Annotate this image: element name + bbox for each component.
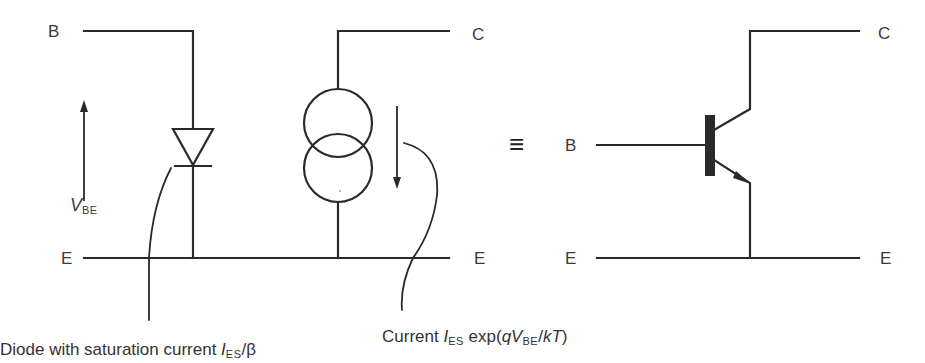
transistor-emitter-wire [714,160,750,258]
current-caption-v: V [511,327,522,346]
terminal-base-label: B [48,23,59,40]
transistor-collector-label: C [878,25,890,42]
transistor-base-bar [705,115,715,176]
circuit-diagram [0,0,925,363]
base-wire [84,31,193,129]
diode-caption-subscript: ES [226,348,242,360]
terminal-collector-label: C [472,26,484,43]
transistor-emitter-arrow-icon [733,171,751,184]
diode-caption-suffix: /β [242,340,257,359]
diode-caption: Diode with saturation current IES/β [0,341,256,360]
current-caption-subscript: ES [448,335,464,347]
current-arrow-head [393,177,401,189]
current-leader-curve [402,143,437,310]
current-caption-q: q [502,327,511,346]
transistor-base-label: B [565,137,576,154]
vbe-label: VBE [70,196,98,216]
current-caption-kt: kT [543,327,562,346]
diode-caption-text: Diode with saturation current [0,340,221,359]
transistor-emitter-left-label: E [565,250,576,267]
transistor-collector-wire [714,31,859,130]
terminal-emitter-right-label: E [474,250,485,267]
current-source-circle-top [304,89,372,157]
diode-icon [173,129,213,165]
collector-wire [338,31,449,88]
current-caption-v-subscript: BE [522,335,538,347]
current-source-circle-bottom [304,134,372,202]
current-caption-text: Current [382,327,443,346]
vbe-subscript: BE [82,204,98,216]
current-caption: Current IES exp(qVBE/kT) [382,328,567,347]
diode-leader-curve [149,168,171,320]
current-caption-exp: exp( [464,327,502,346]
transistor-emitter-right-label: E [880,250,891,267]
equivalence-symbol: ≡ [509,131,524,157]
vbe-symbol: V [70,195,82,215]
current-caption-close: ) [562,327,568,346]
vbe-arrow-head [80,100,88,112]
terminal-emitter-left-label: E [61,250,72,267]
